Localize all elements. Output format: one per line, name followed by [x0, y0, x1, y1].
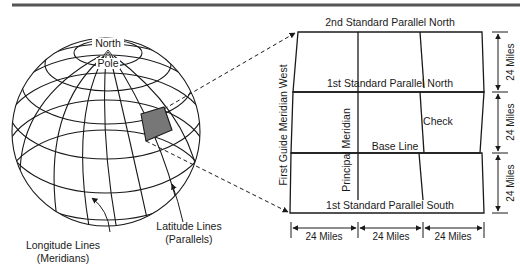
pole-label-pole: Pole: [97, 57, 118, 69]
vertical-dimension-3: 24 Miles: [505, 164, 516, 201]
base-line-label: Base Line: [372, 140, 419, 152]
pole-marker-icon: [104, 50, 112, 55]
first-standard-parallel-south-label: 1st Standard Parallel South: [326, 199, 454, 211]
vertical-dimension-1: 24 Miles: [505, 43, 516, 80]
first-standard-parallel-north-label: 1st Standard Parallel North: [327, 77, 453, 89]
longitude-sublabel: (Meridians): [37, 252, 90, 264]
pole-label-north: North: [95, 37, 121, 49]
projection-line-bottom: [146, 141, 288, 212]
first-guide-meridian-west-label: First Guide Meridian West: [277, 64, 289, 185]
survey-diagram: North Pole Longitude Lines (Meridians) L…: [0, 0, 520, 272]
check-label: Check: [423, 115, 454, 127]
projection-line-top: [164, 33, 295, 109]
latitude-pointer: [172, 184, 183, 222]
longitude-label: Longitude Lines: [26, 239, 100, 251]
second-standard-parallel-north-label: 2nd Standard Parallel North: [325, 16, 455, 28]
survey-grid: [290, 32, 484, 213]
horizontal-dimension-3: 24 Miles: [434, 231, 471, 242]
latitude-label: Latitude Lines: [156, 220, 221, 232]
latitude-sublabel: (Parallels): [165, 233, 212, 245]
range-line-bottom: [419, 153, 423, 200]
horizontal-dimension-1: 24 Miles: [305, 231, 342, 242]
vertical-dimension-2: 24 Miles: [505, 103, 516, 140]
horizontal-dimension-2: 24 Miles: [372, 231, 409, 242]
principal-meridian-label: Principal Meridian: [340, 108, 352, 192]
longitude-pointer: [92, 198, 110, 232]
